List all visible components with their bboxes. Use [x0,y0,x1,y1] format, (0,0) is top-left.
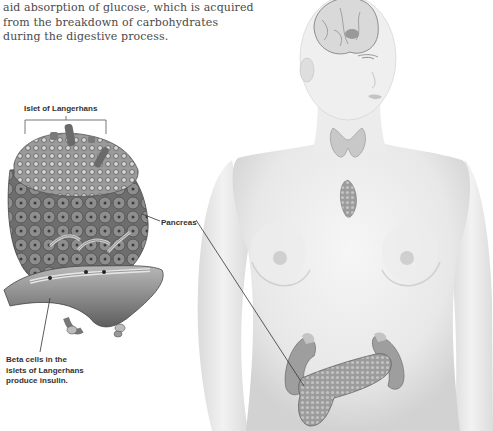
beta-cells-label: Beta cells in the islets of Langerhans p… [6,355,84,387]
beta-label-line: Beta cells in the [6,355,84,366]
pancreas-label-text: Pancreas [161,218,197,229]
brain [314,0,378,54]
pancreas-label: Pancreas [161,218,197,229]
beta-label-line: islets of Langerhans [6,366,84,377]
body-text-line: during the digestive process. [3,30,243,45]
islet-of-langerhans-label: Islet of Langerhans [24,104,97,115]
body-text: aid absorption of glucose, which is acqu… [3,1,243,45]
islet-label-text: Islet of Langerhans [24,104,97,115]
body-text-line: from the breakdown of carbohydrates [3,16,243,31]
islet-of-langerhans-detail [4,116,163,337]
body-text-line: aid absorption of glucose, which is acqu… [3,1,243,16]
beta-cells-leader-line [40,298,50,352]
beta-label-line: produce insulin. [6,376,84,387]
female-torso [198,0,493,431]
